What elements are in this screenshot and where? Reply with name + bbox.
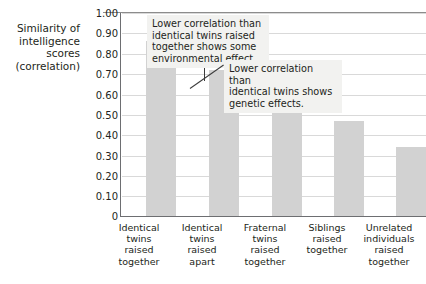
y-tick-label: 0.10 <box>82 191 118 202</box>
y-axis-title-line: (correlation) <box>2 60 80 73</box>
x-label-line: individuals <box>356 233 422 244</box>
annotation-line: Lower correlation than <box>152 18 264 30</box>
x-label-line: raised <box>294 233 360 244</box>
annotation-genetic-effects: Lower correlation than identical twins s… <box>224 60 342 113</box>
y-tick-label: 0.50 <box>82 110 118 121</box>
y-axis-title-line: Similarity of <box>2 22 80 35</box>
y-axis-line <box>120 13 121 217</box>
x-label-line: raised <box>232 244 298 255</box>
y-tick-label: 0.80 <box>82 49 118 60</box>
y-axis-title: Similarity of intelligence scores (corre… <box>2 22 80 72</box>
x-label-line: together <box>356 256 422 267</box>
y-tick-label: 0.90 <box>82 28 118 39</box>
x-label-line: raised <box>106 244 172 255</box>
x-label-line: Fraternal <box>232 222 298 233</box>
x-label-line: Siblings <box>294 222 360 233</box>
annotation-line: identical twins raised <box>152 30 264 42</box>
bar-unrelated-individuals-raised-together <box>396 147 426 216</box>
x-tick-label-identical-twins-raised-apart: Identical twins raised apart <box>169 222 235 267</box>
x-label-line: raised <box>356 244 422 255</box>
x-label-line: apart <box>169 256 235 267</box>
y-tick-label: 1.00 <box>82 8 118 19</box>
y-tick-label: 0.20 <box>82 171 118 182</box>
annotation-line: identical twins shows <box>229 86 337 98</box>
x-label-line: Identical <box>106 222 172 233</box>
annotation-line: Lower correlation than <box>229 63 337 86</box>
annotation-line: together shows some <box>152 41 264 53</box>
x-label-line: twins <box>232 233 298 244</box>
x-tick-label-fraternal-twins-raised-together: Fraternal twins raised together <box>232 222 298 267</box>
x-label-line: twins <box>169 233 235 244</box>
x-tick-label-unrelated-individuals-raised-together: Unrelated individuals raised together <box>356 222 422 267</box>
bar-chart: Similarity of intelligence scores (corre… <box>0 0 426 284</box>
x-label-line: twins <box>106 233 172 244</box>
y-axis-title-line: intelligence <box>2 35 80 48</box>
x-label-line: Unrelated <box>356 222 422 233</box>
x-tick-label-siblings-raised-together: Siblings raised together <box>294 222 360 256</box>
x-axis-line <box>120 216 426 217</box>
y-tick-label: 0.40 <box>82 130 118 141</box>
y-axis-title-line: scores <box>2 47 80 60</box>
x-tick-label-identical-twins-raised-together: Identical twins raised together <box>106 222 172 267</box>
y-tick-label: 0.70 <box>82 69 118 80</box>
annotation-line: genetic effects. <box>229 98 337 110</box>
x-label-line: together <box>106 256 172 267</box>
x-label-line: together <box>232 256 298 267</box>
bar-siblings-raised-together <box>334 121 364 216</box>
y-tick-label: 0 <box>82 211 118 222</box>
x-label-line: together <box>294 244 360 255</box>
x-label-line: Identical <box>169 222 235 233</box>
y-tick-label: 0.60 <box>82 90 118 101</box>
y-tick-label: 0.30 <box>82 151 118 162</box>
x-label-line: raised <box>169 244 235 255</box>
